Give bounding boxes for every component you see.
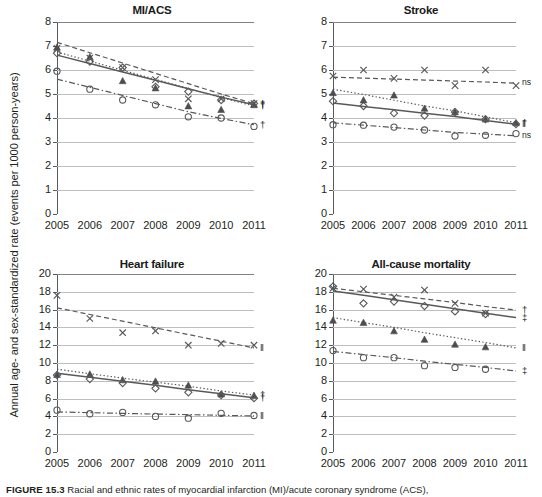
data-point-triangle-series <box>391 92 398 98</box>
panel-stroke: Stroke 012345678200520062007200820092010… <box>300 4 542 240</box>
data-point-circle-series <box>87 411 93 417</box>
trend-line-x-series <box>333 77 516 83</box>
significance-annotation: ‡ <box>522 313 527 323</box>
data-point-circle-series <box>152 413 158 419</box>
panel-mi-acs: MI/ACS 012345678200520062007200820092010… <box>24 4 280 240</box>
data-point-circle-series <box>330 347 336 353</box>
figure-caption: FIGURE 15.3 Racial and ethnic rates of m… <box>6 484 542 497</box>
data-point-x-series <box>360 286 366 292</box>
series-layer <box>300 258 542 462</box>
data-point-x-series <box>482 67 488 73</box>
data-point-triangle-series <box>330 317 337 323</box>
data-point-triangle-series <box>421 336 428 342</box>
series-layer <box>24 258 284 462</box>
data-point-x-series <box>87 315 93 321</box>
data-point-diamond-series <box>360 300 367 307</box>
trend-line-x-series <box>57 42 254 103</box>
data-point-circle-series <box>185 415 191 421</box>
data-point-circle-series <box>152 102 158 108</box>
figure-root: Annual age- and sex-standardized rate (e… <box>0 0 542 497</box>
significance-annotation: ‡ <box>522 366 527 376</box>
series-layer <box>300 4 542 224</box>
data-point-triangle-series <box>482 344 489 350</box>
data-point-circle-series <box>452 364 458 370</box>
data-point-circle-series <box>185 114 191 120</box>
data-point-x-series <box>185 96 191 102</box>
trend-line-triangle-series <box>333 318 516 348</box>
significance-annotation: ‖ <box>522 119 526 129</box>
significance-annotation: ns <box>522 78 531 87</box>
data-point-circle-series <box>360 355 366 361</box>
data-point-circle-series <box>120 409 126 415</box>
data-point-circle-series <box>513 131 519 137</box>
data-point-x-series <box>185 342 191 348</box>
panel-heart-failure: Heart failure 02468101214161820200520062… <box>24 258 280 478</box>
data-point-triangle-series <box>185 382 192 388</box>
significance-annotation: † <box>260 100 265 110</box>
data-point-triangle-series <box>452 341 459 347</box>
data-point-circle-series <box>421 363 427 369</box>
trend-line-x-series <box>57 308 254 348</box>
data-point-triangle-series <box>360 319 367 325</box>
data-point-x-series <box>421 67 427 73</box>
data-point-x-series <box>152 328 158 334</box>
panel-all-cause-mortality: All-cause mortality 02468101214161820200… <box>300 258 542 478</box>
data-point-x-series <box>391 75 397 81</box>
series-layer <box>24 4 284 224</box>
figure-caption-label: FIGURE 15.3 <box>6 484 65 495</box>
data-point-x-series <box>218 340 224 346</box>
data-point-x-series <box>421 287 427 293</box>
data-point-triangle-series <box>218 106 225 112</box>
figure-caption-text: Racial and ethnic rates of myocardial in… <box>67 484 428 495</box>
significance-annotation: † <box>260 393 265 403</box>
data-point-x-series <box>119 330 125 336</box>
significance-annotation: † <box>260 120 265 130</box>
significance-annotation: ‖ <box>260 343 264 353</box>
data-point-circle-series <box>482 132 488 138</box>
significance-annotation: ns <box>522 131 531 140</box>
data-point-x-series <box>452 82 458 88</box>
data-point-triangle-series <box>119 77 126 83</box>
data-point-circle-series <box>120 97 126 103</box>
data-point-x-series <box>54 292 60 298</box>
data-point-circle-series <box>452 133 458 139</box>
data-point-circle-series <box>54 68 60 74</box>
data-point-triangle-series <box>391 328 398 334</box>
data-point-triangle-series <box>185 103 192 109</box>
data-point-x-series <box>360 67 366 73</box>
data-point-triangle-series <box>330 89 337 95</box>
data-point-x-series <box>513 82 519 88</box>
data-point-x-series <box>330 73 336 79</box>
significance-annotation: ‖ <box>522 343 526 353</box>
data-point-x-series <box>452 300 458 306</box>
significance-annotation: ‖ <box>260 411 264 421</box>
data-point-circle-series <box>330 122 336 128</box>
data-point-triangle-series <box>152 378 159 384</box>
